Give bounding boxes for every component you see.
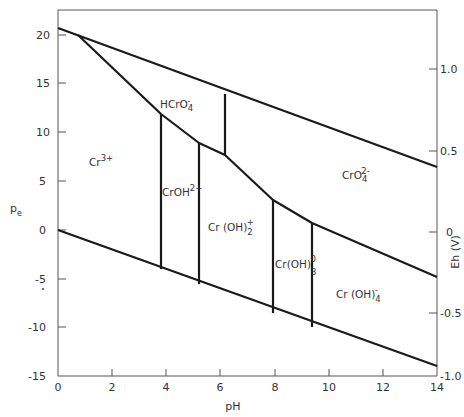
y-right-tick-label: -0.5 bbox=[440, 307, 461, 320]
plot-frame bbox=[58, 10, 437, 376]
left-axis-labels: 20 15 10 5 0 -5 -10 -15 bbox=[28, 29, 50, 383]
y-left-tick-label: -5 bbox=[35, 273, 46, 286]
chromium-redox-boundary-line bbox=[78, 35, 437, 277]
x-tick-label: 12 bbox=[376, 381, 390, 394]
y-right-tick-label: 1.0 bbox=[440, 63, 458, 76]
label-hcro4: HCrO4- bbox=[160, 96, 193, 113]
stray-dot bbox=[42, 288, 44, 290]
y-right-tick-label: 0.5 bbox=[440, 145, 458, 158]
label-croh3: Cr(OH)30 bbox=[275, 254, 316, 277]
svg-text:p: p bbox=[10, 202, 17, 215]
label-croh2: Cr (OH)2+ bbox=[208, 217, 254, 237]
svg-text:e: e bbox=[17, 209, 22, 218]
y-left-tick-label: 5 bbox=[39, 175, 46, 188]
x-tick-label: 4 bbox=[163, 381, 170, 394]
stability-boundaries bbox=[58, 28, 437, 366]
x-tick-label: 8 bbox=[272, 381, 279, 394]
water-upper-limit-line bbox=[58, 28, 437, 167]
x-tick-label: 2 bbox=[109, 381, 116, 394]
y-left-tick-label: -15 bbox=[28, 370, 46, 383]
x-axis-title: pH bbox=[225, 400, 240, 413]
y-left-tick-label: 15 bbox=[36, 77, 50, 90]
y-right-axis-title: Eh (V) bbox=[449, 235, 462, 269]
label-cr3: Cr3+ bbox=[89, 153, 113, 168]
pourbaix-diagram: 20 15 10 5 0 -5 -10 -15 p e 0 2 4 6 8 10… bbox=[0, 0, 464, 417]
x-tick-label: 0 bbox=[55, 381, 62, 394]
y-left-tick-label: -10 bbox=[28, 321, 46, 334]
x-axis-ticks bbox=[112, 369, 383, 376]
x-tick-label: 6 bbox=[217, 381, 224, 394]
y-left-tick-label: 20 bbox=[36, 29, 50, 42]
right-axis-labels: 1.0 0.5 0 -0.5 -1.0 bbox=[440, 63, 461, 383]
label-cro4: CrO42- bbox=[342, 166, 370, 184]
x-axis-labels: 0 2 4 6 8 10 12 14 bbox=[55, 381, 445, 394]
y-left-tick-label: 0 bbox=[39, 224, 46, 237]
y-left-tick-label: 10 bbox=[36, 126, 50, 139]
left-axis-ticks bbox=[58, 35, 66, 327]
x-tick-label: 10 bbox=[322, 381, 336, 394]
species-labels: Cr3+ HCrO4- CrO42- CrOH2+ Cr (OH)2+ Cr(O… bbox=[89, 96, 381, 304]
y-right-tick-label: -1.0 bbox=[440, 370, 461, 383]
label-croh: CrOH2+ bbox=[162, 183, 202, 198]
label-croh4: Cr (OH)4- bbox=[336, 285, 381, 304]
